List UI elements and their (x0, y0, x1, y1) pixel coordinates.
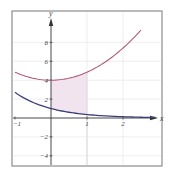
y-tick-label: 4 (45, 77, 49, 85)
y-tick-label: −2 (40, 133, 49, 141)
y-tick-label: 6 (45, 58, 49, 66)
x-tick-label: −1 (13, 120, 21, 128)
x-tick-label: 1 (85, 120, 89, 128)
y-tick-label: −4 (40, 152, 49, 160)
y-tick-label: 2 (45, 96, 49, 104)
x-tick-label: 2 (121, 120, 125, 128)
plot-area: 8642−2−4−112xy (0, 0, 170, 178)
y-tick-label: 8 (45, 39, 49, 47)
chart: 8642−2−4−112xy (0, 0, 170, 178)
x-axis-label: x (159, 114, 164, 123)
y-axis-label: y (48, 9, 53, 18)
